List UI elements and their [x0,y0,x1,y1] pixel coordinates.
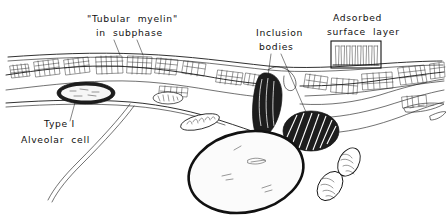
tubular-myelin-label-line2: in subphase [96,27,163,38]
small-organelle-outline [153,92,183,104]
tubular-myelin-label-line1: "Tubular myelin" [87,13,178,24]
type-i-label-line2: Alveolar cell [21,134,90,145]
alveolar-surfactant-figure: "Tubular myelin" in subphase Inclusion b… [0,0,446,220]
figure-canvas: "Tubular myelin" in subphase Inclusion b… [0,0,446,220]
type-i-organelle-lumen [61,86,111,101]
adsorbed-layer-label-line2: surface layer [327,26,400,37]
adsorbed-layer-label-line1: Adsorbed [333,12,382,23]
small-organelle-mid-left [153,92,183,104]
type-i-dark-organelle [57,82,115,104]
inclusion-bodies-label-line1: Inclusion [256,27,303,38]
inclusion-bodies-label-line2: bodies [259,41,293,52]
